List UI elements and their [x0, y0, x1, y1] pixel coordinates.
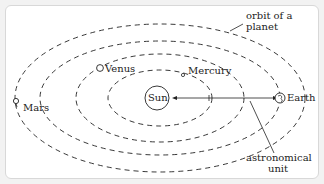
orbit-label-line1: orbit of a	[246, 10, 292, 21]
mercury-label: Mercury	[188, 65, 231, 76]
arrow-left-icon	[172, 96, 177, 100]
mars-icon	[13, 98, 18, 103]
au-label-line1: astronomical	[246, 152, 310, 163]
mars-label: Mars	[23, 102, 49, 113]
earth-label: Earth	[287, 92, 316, 103]
mercury-icon	[181, 73, 184, 76]
venus-icon	[97, 65, 104, 72]
venus-label: Venus	[105, 63, 135, 74]
sun-label: Sun	[148, 92, 168, 103]
orbit-pointer-line	[230, 24, 243, 31]
orbit-label: orbit of a planet	[246, 10, 292, 32]
orbit-label-line2: planet	[246, 21, 292, 32]
earth-icon	[275, 93, 285, 103]
au-label: astronomical unit	[246, 152, 310, 174]
au-label-line2: unit	[246, 163, 310, 174]
au-pointer-line	[250, 101, 274, 153]
